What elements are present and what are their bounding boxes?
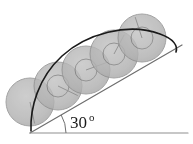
angle-label-value: 30 <box>70 113 87 132</box>
figure-canvas: 30 o <box>0 0 193 144</box>
rolling-disk-incline-figure: 30 o <box>0 0 193 144</box>
angle-arc-icon <box>61 115 66 133</box>
disk-sequence <box>6 14 166 126</box>
angle-label-degree-symbol: o <box>89 111 95 123</box>
disk-5 <box>118 14 166 62</box>
